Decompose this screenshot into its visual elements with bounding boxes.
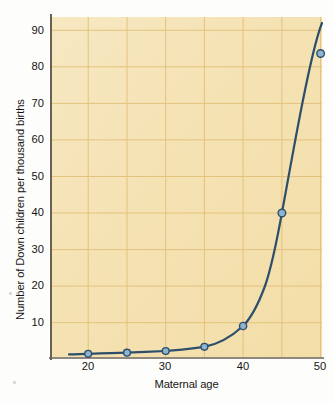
data-point-age-35	[201, 343, 208, 350]
data-point-age-30	[162, 348, 169, 355]
scan-speckle	[16, 292, 19, 295]
data-point-age-25	[124, 349, 131, 356]
data-point-age-20	[85, 350, 92, 357]
plot-background	[51, 17, 322, 357]
scan-speckle	[13, 381, 16, 384]
chart-figure: Number of Down children per thousand bir…	[0, 0, 334, 402]
data-point-age-45	[278, 209, 286, 217]
plot-area	[0, 0, 334, 402]
data-point-age-40	[240, 322, 247, 329]
data-point-age-50	[317, 50, 325, 58]
scan-speckle	[9, 292, 12, 295]
